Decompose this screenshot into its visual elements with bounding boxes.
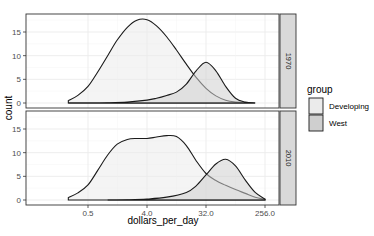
- facet-panel-1970: 1970051015: [12, 14, 296, 108]
- y-tick-label: 15: [12, 28, 21, 37]
- legend-item-developing: Developing: [309, 98, 369, 114]
- facet-strip-label: 1970: [284, 53, 293, 70]
- facet-panels: 19700510152010051015: [12, 14, 296, 205]
- x-tick-label: 0.5: [82, 209, 94, 218]
- legend-item-west: West: [309, 115, 348, 131]
- legend: group DevelopingWest: [307, 84, 369, 131]
- legend-key: [309, 115, 323, 131]
- y-tick-label: 0: [17, 99, 22, 108]
- x-axis-title: dollars_per_day: [127, 215, 198, 226]
- legend-title: group: [307, 84, 333, 95]
- y-tick-label: 5: [17, 172, 22, 181]
- y-tick-label: 0: [17, 196, 22, 205]
- y-tick-label: 10: [12, 149, 21, 158]
- legend-label: West: [329, 119, 348, 128]
- legend-key: [309, 98, 323, 114]
- facet-panel-2010: 2010051015: [12, 111, 296, 205]
- x-tick-label: 256.0: [255, 209, 276, 218]
- density-chart: 19700510152010051015 0.54.032.0256.0 dol…: [0, 0, 374, 236]
- x-tick-label: 32.0: [198, 209, 214, 218]
- y-axis-title: count: [3, 96, 14, 121]
- facet-strip-label: 2010: [284, 150, 293, 167]
- y-tick-label: 10: [12, 52, 21, 61]
- y-tick-label: 15: [12, 125, 21, 134]
- y-tick-label: 5: [17, 75, 22, 84]
- legend-label: Developing: [329, 102, 369, 111]
